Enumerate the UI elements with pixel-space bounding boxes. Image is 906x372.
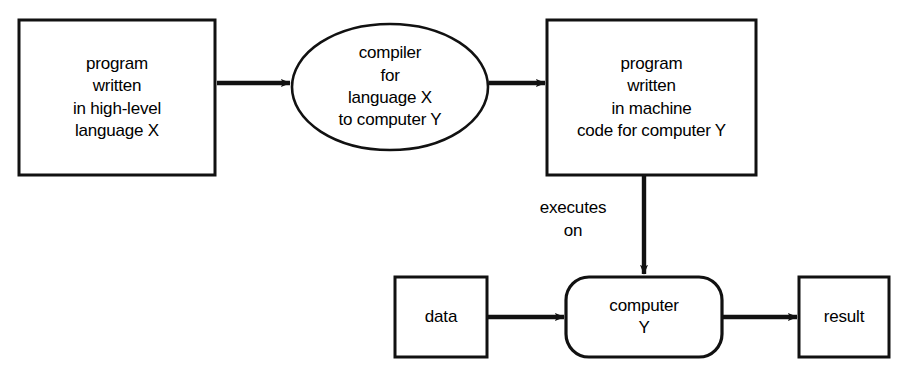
- node-machine-program[interactable]: [547, 20, 756, 175]
- node-result[interactable]: [799, 277, 889, 357]
- diagram-canvas: program written in high-level language X…: [0, 0, 906, 372]
- node-compiler[interactable]: [292, 24, 488, 150]
- node-computer[interactable]: [566, 277, 722, 357]
- node-data[interactable]: [395, 277, 487, 357]
- node-source-program[interactable]: [19, 20, 215, 175]
